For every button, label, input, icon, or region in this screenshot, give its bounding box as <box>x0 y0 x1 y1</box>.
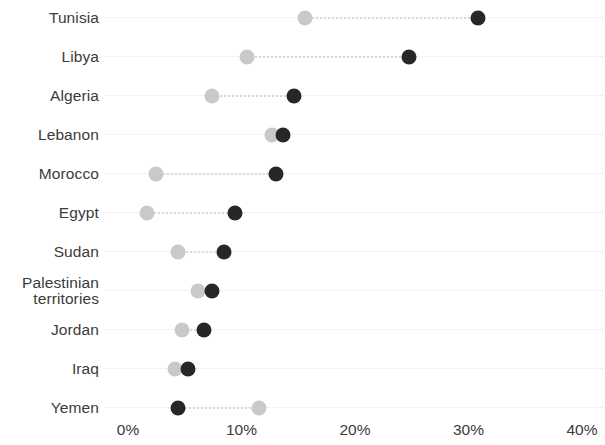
connector-line <box>178 407 259 409</box>
row-gridline <box>104 95 603 96</box>
data-point-light <box>204 89 219 104</box>
category-label: Sudan <box>54 244 99 260</box>
category-label: Yemen <box>51 400 99 416</box>
category-label: Egypt <box>59 205 99 221</box>
data-point-dark <box>181 362 196 377</box>
data-point-dark <box>470 11 485 26</box>
data-point-light <box>170 245 185 260</box>
x-tick-label: 30% <box>453 421 484 439</box>
connector-line <box>147 212 234 214</box>
x-tick-label: 40% <box>566 421 597 439</box>
data-point-light <box>251 401 266 416</box>
category-label: Palestinian territories <box>22 275 99 307</box>
connector-line <box>212 95 294 97</box>
data-point-dark <box>204 284 219 299</box>
data-point-light <box>175 323 190 338</box>
x-tick-label: 20% <box>339 421 370 439</box>
connector-line <box>305 17 478 19</box>
connector-line <box>156 173 275 175</box>
data-point-dark <box>170 401 185 416</box>
row-gridline <box>104 290 603 291</box>
x-tick-label: 10% <box>226 421 257 439</box>
data-point-dark <box>217 245 232 260</box>
category-label: Tunisia <box>49 10 99 26</box>
data-point-light <box>298 11 313 26</box>
data-point-dark <box>197 323 212 338</box>
connector-line <box>247 56 409 58</box>
row-gridline <box>104 134 603 135</box>
data-point-light <box>149 167 164 182</box>
data-point-dark <box>268 167 283 182</box>
data-point-light <box>240 50 255 65</box>
category-label: Lebanon <box>38 127 99 143</box>
category-label: Algeria <box>50 88 99 104</box>
category-label: Libya <box>61 49 99 65</box>
category-label: Iraq <box>72 361 99 377</box>
category-label: Jordan <box>51 322 99 338</box>
data-point-light <box>140 206 155 221</box>
category-label: Morocco <box>39 166 99 182</box>
data-point-dark <box>286 89 301 104</box>
data-point-dark <box>402 50 417 65</box>
x-axis: 0%10%20%30%40% <box>0 417 605 445</box>
dot-plot-chart: 0%10%20%30%40% TunisiaLibyaAlgeriaLebano… <box>0 0 605 445</box>
data-point-dark <box>276 128 291 143</box>
data-point-dark <box>227 206 242 221</box>
x-tick-label: 0% <box>117 421 139 439</box>
